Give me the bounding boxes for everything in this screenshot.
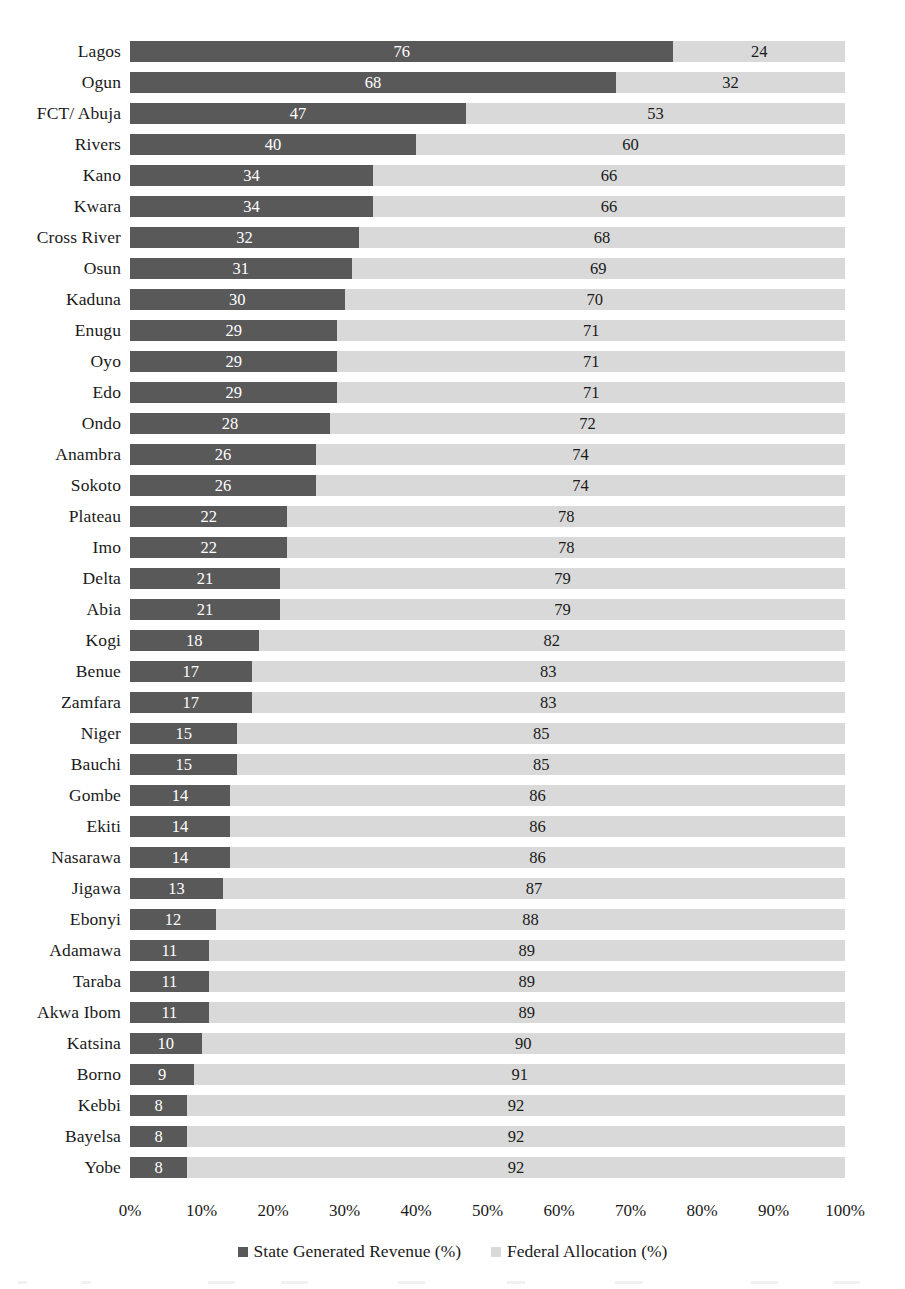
bar-value-label: 53 — [466, 103, 845, 124]
bar-segment-federal-allocation: 70 — [345, 289, 846, 310]
bar-segment-federal-allocation: 89 — [209, 1002, 845, 1023]
bar-row: Bayelsa892 — [0, 1121, 905, 1152]
bar-value-label: 30 — [130, 289, 345, 310]
bar-row: Kebbi892 — [0, 1090, 905, 1121]
bar-row: Ekiti1486 — [0, 811, 905, 842]
bar-row: Lagos7624 — [0, 36, 905, 67]
bar-segment-state-generated-revenue: 34 — [130, 165, 373, 186]
category-label: Bauchi — [71, 749, 130, 780]
bar-track: 2278 — [130, 506, 845, 527]
bar-segment-federal-allocation: 91 — [194, 1064, 845, 1085]
plot-area: Lagos7624Ogun6832FCT/ Abuja4753Rivers406… — [0, 36, 905, 1191]
category-label: Imo — [93, 532, 131, 563]
bar-segment-federal-allocation: 92 — [187, 1095, 845, 1116]
bar-value-label: 8 — [130, 1126, 187, 1147]
bar-segment-state-generated-revenue: 17 — [130, 692, 252, 713]
bar-value-label: 66 — [373, 196, 845, 217]
bar-value-label: 15 — [130, 723, 237, 744]
bar-segment-federal-allocation: 66 — [373, 196, 845, 217]
bar-segment-federal-allocation: 89 — [209, 971, 845, 992]
bar-value-label: 29 — [130, 320, 337, 341]
bar-value-label: 12 — [130, 909, 216, 930]
bar-value-label: 18 — [130, 630, 259, 651]
bar-segment-state-generated-revenue: 11 — [130, 940, 209, 961]
bar-value-label: 29 — [130, 382, 337, 403]
bar-row: Imo2278 — [0, 532, 905, 563]
bar-value-label: 40 — [130, 134, 416, 155]
x-axis-tick-label: 30% — [310, 1200, 380, 1222]
category-label: Plateau — [69, 501, 130, 532]
category-label: Lagos — [78, 36, 130, 67]
bar-track: 3466 — [130, 196, 845, 217]
bar-row: Akwa Ibom1189 — [0, 997, 905, 1028]
bar-segment-federal-allocation: 85 — [237, 754, 845, 775]
bar-segment-state-generated-revenue: 47 — [130, 103, 466, 124]
bar-segment-federal-allocation: 88 — [216, 909, 845, 930]
bar-track: 7624 — [130, 41, 845, 62]
bar-track: 2278 — [130, 537, 845, 558]
bar-value-label: 11 — [130, 971, 209, 992]
x-axis-tick-label: 0% — [95, 1200, 165, 1222]
bar-segment-state-generated-revenue: 18 — [130, 630, 259, 651]
bar-track: 892 — [130, 1126, 845, 1147]
bar-track: 1090 — [130, 1033, 845, 1054]
category-label: Benue — [76, 656, 130, 687]
bar-track: 1486 — [130, 785, 845, 806]
bar-segment-federal-allocation: 32 — [616, 72, 845, 93]
bar-segment-state-generated-revenue: 30 — [130, 289, 345, 310]
bar-value-label: 82 — [259, 630, 845, 651]
bar-value-label: 9 — [130, 1064, 194, 1085]
bar-track: 2971 — [130, 320, 845, 341]
bar-track: 1189 — [130, 1002, 845, 1023]
bar-segment-state-generated-revenue: 21 — [130, 568, 280, 589]
bar-value-label: 78 — [287, 537, 845, 558]
bar-segment-federal-allocation: 66 — [373, 165, 845, 186]
category-label: Ebonyi — [70, 904, 130, 935]
bar-track: 1288 — [130, 909, 845, 930]
scan-bleed-artifact — [0, 1267, 905, 1289]
bar-track: 4753 — [130, 103, 845, 124]
bar-track: 3070 — [130, 289, 845, 310]
bar-row: Delta2179 — [0, 563, 905, 594]
bar-segment-state-generated-revenue: 15 — [130, 754, 237, 775]
bar-value-label: 11 — [130, 940, 209, 961]
bar-value-label: 92 — [187, 1126, 845, 1147]
bar-value-label: 8 — [130, 1157, 187, 1178]
bar-segment-federal-allocation: 71 — [337, 382, 845, 403]
bar-row: Anambra2674 — [0, 439, 905, 470]
bar-value-label: 85 — [237, 723, 845, 744]
category-label: Rivers — [75, 129, 130, 160]
bar-value-label: 29 — [130, 351, 337, 372]
bar-track: 1486 — [130, 847, 845, 868]
x-axis-tick-label: 50% — [453, 1200, 523, 1222]
bar-track: 1783 — [130, 661, 845, 682]
bar-track: 892 — [130, 1157, 845, 1178]
bar-value-label: 17 — [130, 692, 252, 713]
bar-value-label: 71 — [337, 351, 845, 372]
bar-value-label: 74 — [316, 444, 845, 465]
bar-row: Jigawa1387 — [0, 873, 905, 904]
bar-track: 2179 — [130, 599, 845, 620]
bar-value-label: 89 — [209, 940, 845, 961]
bar-segment-state-generated-revenue: 14 — [130, 816, 230, 837]
bar-row: Benue1783 — [0, 656, 905, 687]
bar-segment-state-generated-revenue: 15 — [130, 723, 237, 744]
category-label: Ekiti — [86, 811, 130, 842]
bar-value-label: 11 — [130, 1002, 209, 1023]
category-label: Kaduna — [66, 284, 130, 315]
bar-segment-state-generated-revenue: 8 — [130, 1095, 187, 1116]
bar-segment-federal-allocation: 68 — [359, 227, 845, 248]
bar-value-label: 22 — [130, 537, 287, 558]
bar-track: 892 — [130, 1095, 845, 1116]
bar-value-label: 90 — [202, 1033, 846, 1054]
bar-value-label: 74 — [316, 475, 845, 496]
bar-track: 3466 — [130, 165, 845, 186]
bar-segment-federal-allocation: 78 — [287, 537, 845, 558]
bar-segment-state-generated-revenue: 32 — [130, 227, 359, 248]
bar-segment-state-generated-revenue: 9 — [130, 1064, 194, 1085]
bar-value-label: 86 — [230, 847, 845, 868]
bar-row: Gombe1486 — [0, 780, 905, 811]
bar-segment-state-generated-revenue: 29 — [130, 320, 337, 341]
category-label: Sokoto — [71, 470, 130, 501]
bar-track: 2179 — [130, 568, 845, 589]
